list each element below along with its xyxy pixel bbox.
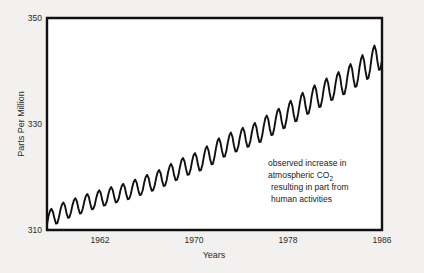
x-tick-label-1986: 1986: [373, 235, 392, 245]
co2-chart-figure: 350 330 310 1962 1970 1978 1986 Years Pa…: [0, 0, 424, 273]
x-tick-label-1970: 1970: [185, 235, 204, 245]
annotation-line-2-text: atmospheric CO: [268, 170, 330, 180]
y-tick-label-330: 330: [28, 119, 42, 129]
x-tick-label-1962: 1962: [91, 235, 110, 245]
annotation-line-1: observed increase in: [268, 158, 347, 168]
y-tick-label-310: 310: [28, 225, 42, 235]
y-axis-title: Parts Per Million: [16, 91, 26, 157]
x-tick-label-1978: 1978: [279, 235, 298, 245]
x-axis-title: Years: [203, 250, 226, 260]
y-tick-label-350: 350: [28, 13, 42, 23]
annotation-line-4: human activities: [271, 194, 332, 204]
annotation-line-3: resulting in part from: [271, 182, 348, 192]
